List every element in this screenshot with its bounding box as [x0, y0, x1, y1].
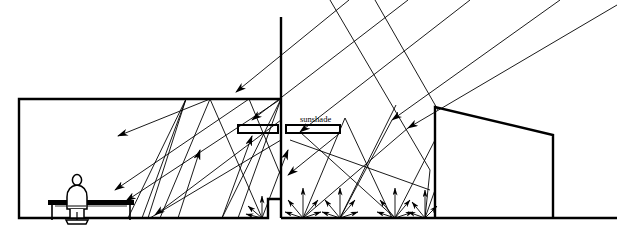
sun-ray-5: [236, 0, 349, 92]
bounce-ray-6: [150, 140, 281, 218]
desk-top: [48, 200, 134, 205]
bounce-ray-3: [118, 99, 210, 136]
zig-7: [128, 99, 186, 218]
ext-10: [288, 133, 340, 175]
scatter-fan-1: [285, 188, 321, 218]
sun-ray-6: [330, 0, 430, 170]
head: [72, 175, 81, 186]
ext-6: [303, 128, 408, 218]
chair-base: [66, 220, 88, 224]
sun-rays: [236, 0, 617, 170]
up-arrow-1: [222, 136, 252, 218]
scatter-fan-4: [408, 190, 437, 218]
louvre-left: [238, 125, 278, 133]
occupant-figure: [66, 175, 88, 224]
daylighting-diagram: sunshade: [0, 0, 617, 240]
up-arrow-3: [262, 150, 288, 218]
sunshade-louvres: [238, 125, 340, 133]
ext-3: [340, 105, 396, 218]
ext-7: [340, 120, 392, 218]
louvre-right: [286, 125, 340, 133]
diagram-canvas: sunshade: [0, 0, 617, 240]
sun-ray-7: [375, 0, 438, 110]
sun-ray-3: [300, 0, 470, 132]
torso: [67, 185, 87, 209]
ext-11: [290, 140, 430, 190]
interior-zigzag-rays: [128, 99, 281, 218]
sunshade-label: sunshade: [300, 114, 331, 124]
desk-and-occupant: [48, 175, 134, 224]
sun-ray-2: [392, 0, 560, 120]
upward-arrows-interior: [178, 136, 288, 218]
zig-1: [160, 99, 210, 218]
adjacent-building: [435, 107, 553, 218]
